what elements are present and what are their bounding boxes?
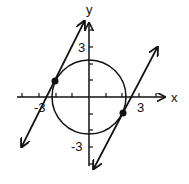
- left-tangent-line: [22, 22, 84, 146]
- x-axis-label: x: [171, 90, 178, 105]
- tangent-point-left: [52, 78, 59, 85]
- coordinate-plane-diagram: x y -3 3 3 -3: [0, 0, 189, 184]
- y-tick-label-3: 3: [78, 40, 85, 55]
- x-tick-label-neg3: -3: [34, 100, 46, 115]
- y-axis-label: y: [86, 2, 93, 17]
- y-tick-label-neg3: -3: [71, 139, 83, 154]
- tangent-point-right: [120, 110, 127, 117]
- x-tick-label-3: 3: [137, 100, 144, 115]
- right-tangent-line: [94, 48, 157, 168]
